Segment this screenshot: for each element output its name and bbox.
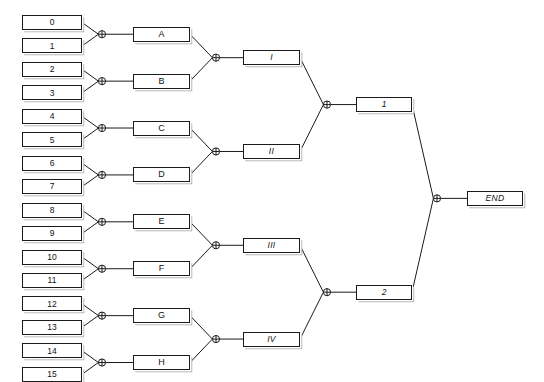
merge-I-II[interactable] <box>321 98 334 111</box>
round1-box-4-label: E <box>158 217 164 226</box>
round1-box-2-label: C <box>158 124 165 133</box>
merge-8-9[interactable] <box>96 215 109 228</box>
seed-box-0[interactable]: 0 <box>22 15 82 30</box>
round1-box-7[interactable]: H <box>133 355 190 370</box>
round3-box-1-label: 2 <box>382 288 387 297</box>
round1-box-2[interactable]: C <box>133 121 190 136</box>
seed-box-15[interactable]: 15 <box>22 367 82 382</box>
merge-10-11[interactable] <box>96 262 109 275</box>
merge-4-5[interactable] <box>96 122 109 135</box>
seed-box-12[interactable]: 12 <box>22 296 82 311</box>
seed-box-1-label: 1 <box>50 42 55 51</box>
merge-E-F[interactable] <box>210 239 223 252</box>
round2-box-2[interactable]: III <box>243 238 300 253</box>
seed-box-0-label: 0 <box>50 18 55 27</box>
seed-box-11-label: 11 <box>48 276 57 285</box>
round1-box-6[interactable]: G <box>133 308 190 323</box>
round3-box-0[interactable]: 1 <box>356 97 412 112</box>
merge-6-7[interactable] <box>96 168 109 181</box>
round3-box-1[interactable]: 2 <box>356 285 412 300</box>
merge-A-B[interactable] <box>210 51 223 64</box>
merge-2-3[interactable] <box>96 75 109 88</box>
round1-box-4[interactable]: E <box>133 214 190 229</box>
seed-box-6[interactable]: 6 <box>22 156 82 171</box>
seed-box-9[interactable]: 9 <box>22 226 82 241</box>
merge-1-2[interactable] <box>431 192 444 205</box>
seed-box-9-label: 9 <box>50 229 55 238</box>
round1-box-0-label: A <box>158 30 164 39</box>
seed-box-3[interactable]: 3 <box>22 85 82 100</box>
merge-12-13[interactable] <box>96 309 109 322</box>
seed-box-3-label: 3 <box>50 89 55 98</box>
round2-box-0[interactable]: I <box>243 50 300 65</box>
seed-box-10-label: 10 <box>47 253 56 262</box>
round2-box-1-label: II <box>269 147 274 156</box>
seed-box-13-label: 13 <box>47 323 56 332</box>
final-box-label: END <box>485 194 504 203</box>
round1-box-0[interactable]: A <box>133 27 190 42</box>
seed-box-2-label: 2 <box>50 65 55 74</box>
round1-box-5[interactable]: F <box>133 261 190 276</box>
seed-box-2[interactable]: 2 <box>22 62 82 77</box>
round1-box-6-label: G <box>158 311 165 320</box>
round1-box-3[interactable]: D <box>133 167 190 182</box>
seed-box-13[interactable]: 13 <box>22 320 82 335</box>
round1-box-5-label: F <box>159 264 165 273</box>
merge-C-D[interactable] <box>210 145 223 158</box>
merge-III-IV[interactable] <box>321 286 334 299</box>
seed-box-11[interactable]: 11 <box>22 273 82 288</box>
round2-box-2-label: III <box>268 241 276 250</box>
seed-box-10[interactable]: 10 <box>22 250 82 265</box>
round2-box-3-label: IV <box>267 335 276 344</box>
seed-box-8[interactable]: 8 <box>22 203 82 218</box>
merge-0-1[interactable] <box>96 28 109 41</box>
seed-box-8-label: 8 <box>50 206 55 215</box>
round3-box-0-label: 1 <box>382 100 387 109</box>
seed-box-15-label: 15 <box>47 370 56 379</box>
merge-14-15[interactable] <box>96 356 109 369</box>
final-box[interactable]: END <box>467 191 523 206</box>
seed-box-4-label: 4 <box>50 112 55 121</box>
seed-box-7[interactable]: 7 <box>22 179 82 194</box>
seed-box-7-label: 7 <box>50 182 55 191</box>
seed-box-6-label: 6 <box>50 159 55 168</box>
round1-box-3-label: D <box>158 170 165 179</box>
round1-box-7-label: H <box>158 358 165 367</box>
seed-box-1[interactable]: 1 <box>22 38 82 53</box>
seed-box-12-label: 12 <box>47 300 56 309</box>
round2-box-1[interactable]: II <box>243 144 300 159</box>
round1-box-1-label: B <box>158 77 164 86</box>
merge-G-H[interactable] <box>210 333 223 346</box>
round2-box-0-label: I <box>270 53 273 62</box>
round2-box-3[interactable]: IV <box>243 332 300 347</box>
seed-box-14-label: 14 <box>47 347 56 356</box>
seed-box-4[interactable]: 4 <box>22 109 82 124</box>
seed-box-5[interactable]: 5 <box>22 132 82 147</box>
seed-box-14[interactable]: 14 <box>22 343 82 358</box>
seed-box-5-label: 5 <box>50 136 55 145</box>
round1-box-1[interactable]: B <box>133 74 190 89</box>
